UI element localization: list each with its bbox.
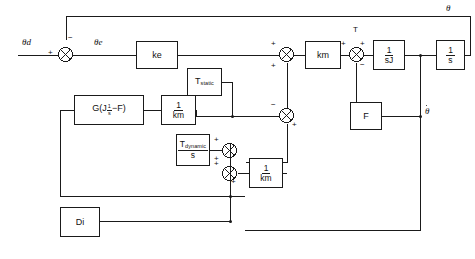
sign-torque-bottom: −: [360, 61, 365, 69]
signal-label-theta-out: θ: [446, 4, 450, 13]
label-t-static: Tstatic: [195, 77, 214, 86]
junction-theta-dot-tap: [419, 115, 422, 118]
block-inv-km-upper[interactable]: 1 km: [161, 95, 196, 125]
junction-lower-bus-dyn: [229, 195, 232, 198]
junction-lower-bus-dist: [229, 220, 232, 223]
block-diagram-canvas: θd θe θ θ T ke km 1 sJ 1 s F Tstatic Tdy…: [0, 0, 475, 259]
sign-error-top: −: [68, 34, 73, 42]
sign-dynamic-top: +: [214, 136, 219, 144]
sign-friction-bottom: +: [292, 121, 297, 129]
block-inv-km-lower[interactable]: 1 km: [249, 158, 283, 188]
fraction-inv-sJ: 1 sJ: [383, 46, 396, 65]
block-t-static[interactable]: Tstatic: [187, 68, 222, 96]
fraction-inv-s: 1 s: [446, 46, 455, 65]
block-g-js-f[interactable]: G(J1s−F): [74, 95, 144, 125]
block-t-dynamic-over-s[interactable]: Tdynamic s: [176, 134, 210, 166]
sign-friction-left: −: [271, 101, 276, 109]
fraction-t-dynamic: Tdynamic s: [178, 140, 208, 160]
summer-error[interactable]: [58, 47, 73, 62]
summer-drive[interactable]: [279, 47, 294, 62]
fraction-inv-km-lower: 1 km: [258, 164, 273, 183]
sign-drive-bottom: +: [271, 62, 276, 70]
signal-label-torque: T: [353, 26, 358, 34]
junction-theta-dot-bus: [419, 54, 422, 57]
sign-error-left: +: [48, 49, 53, 57]
sign-torque-left: +: [341, 40, 346, 48]
block-km[interactable]: km: [305, 41, 341, 69]
junction-friction-in: [231, 115, 234, 118]
summer-dynamic-icon: [222, 143, 237, 158]
block-inv-s[interactable]: 1 s: [436, 40, 465, 70]
sign-disturbance-bottom: +: [231, 178, 236, 186]
block-Di[interactable]: Di: [60, 207, 100, 237]
fraction-inv-km-upper: 1 km: [171, 101, 186, 120]
sign-disturbance-top: +: [214, 160, 219, 168]
expression-g-js-f: G(J1s−F): [92, 104, 125, 117]
block-inv-sJ[interactable]: 1 sJ: [373, 40, 405, 70]
sign-drive-left: +: [271, 40, 276, 48]
block-ke[interactable]: ke: [136, 41, 178, 69]
summer-dynamic[interactable]: [222, 143, 237, 158]
block-F[interactable]: F: [350, 102, 382, 130]
signal-label-theta-d: θd: [22, 38, 31, 47]
signal-label-theta-dot: θ: [425, 107, 429, 116]
summer-error-icon: [58, 47, 73, 62]
summer-drive-icon: [279, 47, 294, 62]
sign-torque-top: +: [360, 40, 365, 48]
signal-label-theta-e: θe: [94, 38, 102, 47]
